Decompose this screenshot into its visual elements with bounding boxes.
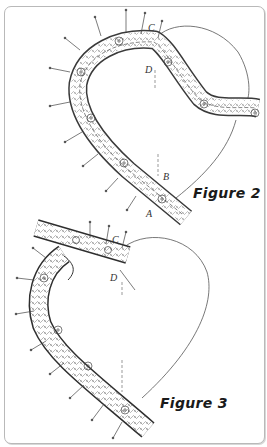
figure-2-caption: Figure 2 [193,185,261,201]
figure-2-point-c: C [148,22,155,33]
figure-2-point-b: B [163,171,169,182]
figure-3-heart-outline [124,237,209,398]
figure-2-point-a: A [146,208,152,219]
figure-3-point-c: C [112,234,119,245]
illustration-canvas [0,0,267,447]
figure-2-point-d: D [145,64,152,75]
figure-3-caption: Figure 3 [160,395,228,411]
figure-3-point-d: D [110,272,117,283]
